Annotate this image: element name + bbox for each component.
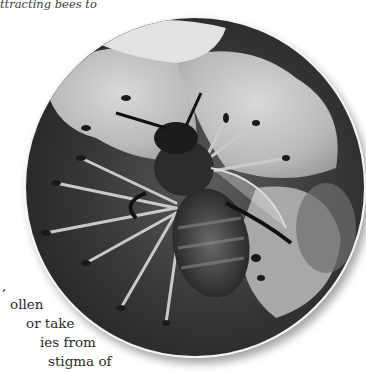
bee-flower-illustration [26,18,364,356]
bee-on-flower-photo [24,16,366,358]
figure-caption: ttracting bees to [0,0,97,11]
